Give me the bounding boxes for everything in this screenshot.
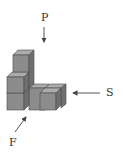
cube-left-middle xyxy=(7,72,29,93)
label-side-view: S xyxy=(106,87,114,98)
arrow-front-view xyxy=(15,117,26,132)
label-top-view: P xyxy=(41,12,48,23)
cube-right-front xyxy=(40,88,61,110)
cube-structure-diagram: P S F xyxy=(0,0,123,155)
cube-structure-svg xyxy=(0,0,123,155)
label-front-view: F xyxy=(9,137,17,148)
